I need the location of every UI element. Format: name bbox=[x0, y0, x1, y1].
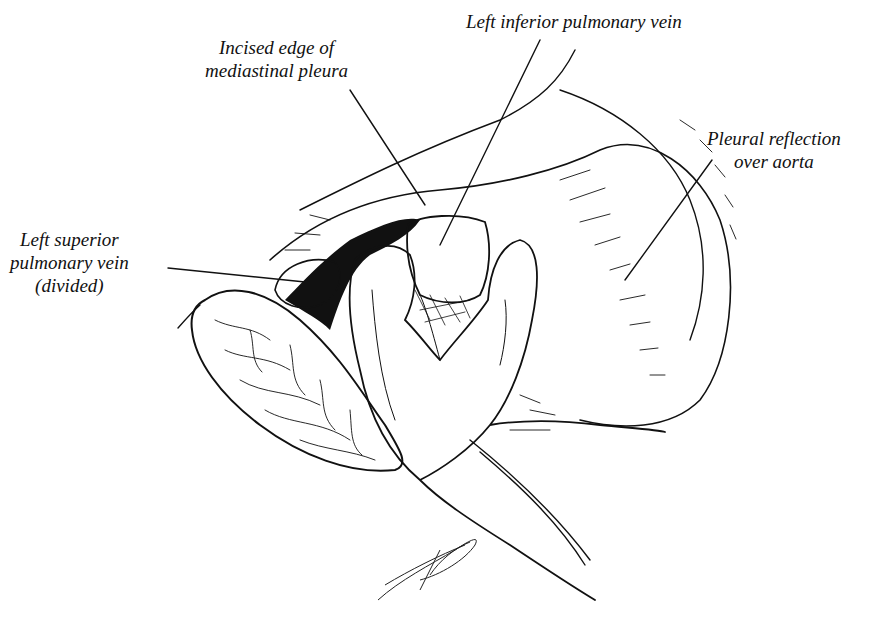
label-incised-edge-mediastinal-pleura: Incised edge of mediastinal pleura bbox=[205, 36, 348, 82]
leader-incised-edge bbox=[350, 90, 425, 205]
finger-crease bbox=[372, 290, 506, 420]
label-line: Left inferior pulmonary vein bbox=[466, 10, 682, 33]
label-line: (divided) bbox=[10, 274, 129, 297]
leader-superior-vein bbox=[168, 268, 305, 282]
surgeon-hand bbox=[350, 240, 665, 600]
lung-texture bbox=[215, 320, 375, 460]
illustration bbox=[0, 0, 872, 617]
artist-signature bbox=[378, 540, 476, 600]
label-line: Left superior bbox=[10, 228, 129, 251]
hilar-shadow bbox=[285, 219, 420, 330]
label-left-inferior-pulmonary-vein: Left inferior pulmonary vein bbox=[466, 10, 682, 33]
label-line: mediastinal pleura bbox=[205, 59, 348, 82]
label-line: Pleural reflection bbox=[707, 127, 841, 150]
label-pleural-reflection-over-aorta: Pleural reflection over aorta bbox=[707, 127, 841, 173]
label-line: Incised edge of bbox=[205, 36, 348, 59]
label-line: pulmonary vein bbox=[10, 251, 129, 274]
pleura-hatching bbox=[285, 120, 736, 430]
label-left-superior-pulmonary-vein: Left superior pulmonary vein (divided) bbox=[10, 228, 129, 297]
lung-lobe bbox=[192, 290, 403, 470]
label-line: over aorta bbox=[707, 150, 841, 173]
aorta-contour bbox=[560, 90, 703, 340]
vein-mesh bbox=[415, 290, 470, 325]
thread bbox=[178, 305, 200, 328]
tube-lines-2 bbox=[480, 452, 585, 565]
leader-inferior-vein bbox=[440, 40, 540, 245]
leader-pleural-reflection bbox=[625, 160, 712, 280]
